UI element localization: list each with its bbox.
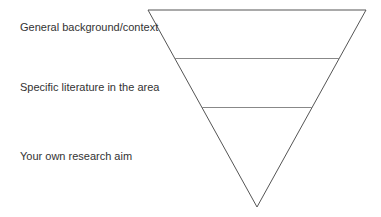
funnel-outline xyxy=(148,10,366,207)
level-label-research-aim: Your own research aim xyxy=(20,150,132,163)
funnel-diagram: General background/context Specific lite… xyxy=(0,0,381,217)
level-label-general-background: General background/context xyxy=(20,21,158,34)
level-label-specific-literature: Specific literature in the area xyxy=(20,81,159,94)
